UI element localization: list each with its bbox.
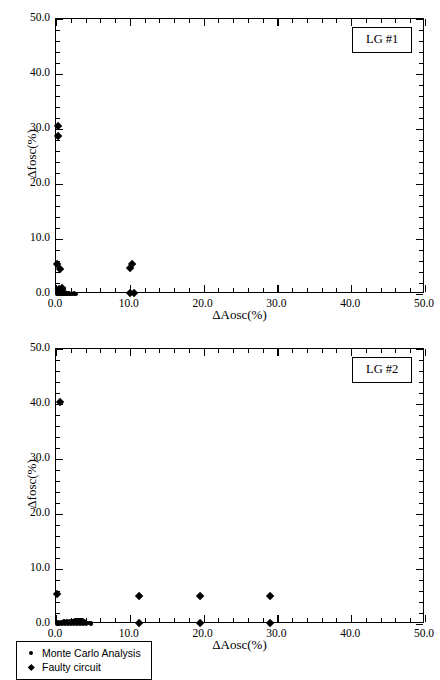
data-point-monte-carlo: [62, 619, 66, 623]
data-point-monte-carlo: [61, 292, 65, 296]
data-point-monte-carlo: [84, 622, 88, 626]
x-minor-tick-top: [174, 19, 175, 23]
x-major-tick-top: [277, 349, 278, 356]
data-point-monte-carlo: [56, 290, 60, 294]
x-minor-tick: [248, 288, 249, 292]
x-minor-tick: [159, 618, 160, 622]
x-minor-tick: [410, 618, 411, 622]
x-major-tick-top: [56, 349, 57, 356]
data-point-monte-carlo: [66, 622, 70, 626]
x-minor-tick-top: [189, 349, 190, 353]
data-point-monte-carlo: [65, 620, 69, 624]
y-minor-tick: [56, 52, 60, 53]
data-point-monte-carlo: [72, 291, 76, 295]
data-point-faulty-circuit: [53, 590, 62, 599]
data-point-monte-carlo: [66, 292, 70, 296]
y-minor-tick-right: [419, 217, 423, 218]
data-point-faulty-circuit: [266, 592, 275, 601]
data-point-monte-carlo: [69, 622, 73, 626]
data-point-monte-carlo: [56, 292, 60, 296]
x-major-tick-top: [204, 19, 205, 26]
x-minor-tick-top: [395, 349, 396, 353]
plot-frame-lg1: [55, 18, 424, 293]
y-minor-tick-right: [419, 228, 423, 229]
y-major-tick-right: [416, 404, 423, 405]
data-point-monte-carlo: [67, 292, 71, 296]
y-tick-label: 50.0: [8, 341, 50, 354]
y-minor-tick-right: [419, 580, 423, 581]
x-minor-tick-top: [322, 19, 323, 23]
x-minor-tick-top: [159, 19, 160, 23]
data-point-monte-carlo: [68, 292, 72, 296]
data-point-monte-carlo: [56, 288, 60, 292]
data-point-monte-carlo: [73, 618, 77, 622]
data-point-monte-carlo: [73, 619, 77, 623]
y-major-tick-right: [416, 239, 423, 240]
data-point-monte-carlo: [77, 618, 81, 622]
x-minor-tick-top: [263, 349, 264, 353]
y-minor-tick: [56, 283, 60, 284]
data-point-monte-carlo: [79, 618, 83, 622]
data-point-monte-carlo: [59, 620, 63, 624]
y-minor-tick-right: [419, 525, 423, 526]
y-tick-label: 0.0: [8, 286, 50, 299]
data-point-faulty-circuit: [55, 285, 64, 294]
y-minor-tick: [56, 536, 60, 537]
y-minor-tick: [56, 272, 60, 273]
y-minor-tick: [56, 206, 60, 207]
x-minor-tick: [381, 618, 382, 622]
y-minor-tick: [56, 558, 60, 559]
x-minor-tick-top: [233, 349, 234, 353]
x-minor-tick: [248, 618, 249, 622]
data-point-monte-carlo: [66, 291, 70, 295]
data-point-monte-carlo: [76, 618, 80, 622]
data-point-faulty-circuit: [55, 398, 64, 407]
y-tick-label: 10.0: [8, 231, 50, 244]
x-minor-tick-top: [307, 19, 308, 23]
x-minor-tick-top: [145, 19, 146, 23]
x-minor-tick: [233, 618, 234, 622]
y-major-tick-right: [416, 624, 423, 625]
y-minor-tick: [56, 547, 60, 548]
data-point-faulty-circuit: [135, 592, 144, 601]
data-point-faulty-circuit: [58, 284, 67, 293]
y-minor-tick-right: [419, 283, 423, 284]
data-point-monte-carlo: [55, 621, 59, 625]
figure-root: 0.010.020.030.040.050.0 0.010.020.030.04…: [0, 0, 440, 680]
y-minor-tick: [56, 41, 60, 42]
data-point-monte-carlo: [63, 292, 67, 296]
y-minor-tick-right: [419, 558, 423, 559]
y-axis-title-lg2: Δfosc(%): [24, 424, 40, 544]
y-minor-tick: [56, 426, 60, 427]
x-major-tick: [351, 285, 352, 292]
x-minor-tick-top: [381, 349, 382, 353]
x-minor-tick-top: [381, 19, 382, 23]
x-minor-tick-top: [336, 349, 337, 353]
data-point-monte-carlo: [89, 621, 93, 625]
x-minor-tick-top: [159, 349, 160, 353]
x-major-tick: [204, 285, 205, 292]
y-minor-tick: [56, 602, 60, 603]
data-point-monte-carlo: [70, 292, 74, 296]
y-minor-tick: [56, 140, 60, 141]
data-points-lg1: [56, 19, 423, 292]
data-point-monte-carlo: [55, 291, 59, 295]
y-major-tick-right: [416, 514, 423, 515]
x-minor-tick-top: [115, 19, 116, 23]
y-minor-tick-right: [419, 250, 423, 251]
chart-legend: Monte Carlo Analysis Faulty circuit: [16, 641, 152, 680]
data-point-monte-carlo: [61, 621, 65, 625]
data-point-monte-carlo: [55, 292, 59, 296]
y-minor-tick: [56, 470, 60, 471]
y-minor-tick-right: [419, 360, 423, 361]
circle-marker-icon: [24, 647, 38, 660]
data-point-monte-carlo: [78, 622, 82, 626]
x-major-tick: [130, 285, 131, 292]
x-major-tick: [277, 285, 278, 292]
y-minor-tick: [56, 481, 60, 482]
x-minor-tick: [307, 618, 308, 622]
y-minor-tick-right: [419, 107, 423, 108]
y-minor-tick: [56, 195, 60, 196]
y-minor-tick-right: [419, 151, 423, 152]
y-minor-tick: [56, 393, 60, 394]
